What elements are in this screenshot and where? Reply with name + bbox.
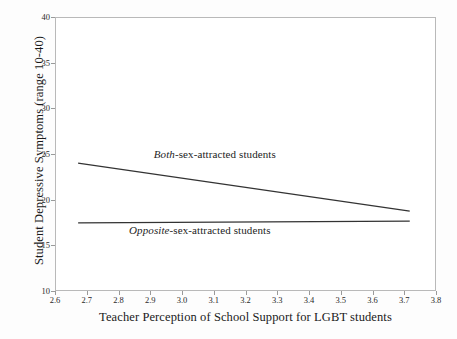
y-tick-mark [51,17,55,18]
x-tick-mark [277,291,278,295]
figure-container: Student Depressive Symptoms (range 10-40… [0,0,457,339]
x-tick-mark [373,291,374,295]
series-label-both-sex-attracted: Both-sex-attracted students [154,148,276,160]
y-tick-label: 30 [20,104,50,113]
x-tick-mark [309,291,310,295]
x-tick-mark [182,291,183,295]
x-tick-mark [150,291,151,295]
y-tick-mark [51,108,55,109]
series-line-opposite-sex-attracted [78,221,410,223]
series-label-both-rest: -sex-attracted students [175,148,276,160]
y-tick-label: 40 [20,13,50,22]
series-label-opposite-emphasis: Opposite [129,224,170,236]
y-tick-mark [51,63,55,64]
series-label-both-emphasis: Both [154,148,175,160]
series-label-opposite-sex-attracted: Opposite-sex-attracted students [129,224,271,236]
x-tick-mark [436,291,437,295]
x-tick-mark [341,291,342,295]
x-tick-mark [214,291,215,295]
y-tick-label: 10 [20,287,50,296]
y-tick-label: 35 [20,59,50,68]
y-tick-label: 20 [20,196,50,205]
x-tick-label: 3.7 [387,296,421,305]
x-tick-label: 3.8 [419,296,453,305]
series-label-opposite-rest: -sex-attracted students [170,224,271,236]
x-tick-label: 2.6 [38,296,72,305]
y-tick-mark [51,154,55,155]
x-tick-mark [119,291,120,295]
x-tick-mark [87,291,88,295]
x-tick-label: 2.9 [133,296,167,305]
x-tick-label: 3.2 [229,296,263,305]
x-tick-mark [246,291,247,295]
x-tick-label: 3.4 [292,296,326,305]
x-axis-title: Teacher Perception of School Support for… [55,310,436,325]
series-line-both-sex-attracted [78,163,410,211]
y-tick-mark [51,200,55,201]
x-tick-label: 3.5 [324,296,358,305]
x-tick-label: 3.1 [197,296,231,305]
x-tick-label: 3.0 [165,296,199,305]
x-tick-label: 3.6 [356,296,390,305]
y-tick-label: 15 [20,241,50,250]
x-tick-mark [404,291,405,295]
x-tick-label: 3.3 [260,296,294,305]
x-tick-label: 2.7 [70,296,104,305]
y-tick-label: 25 [20,150,50,159]
y-tick-mark [51,245,55,246]
x-tick-label: 2.8 [102,296,136,305]
x-tick-mark [55,291,56,295]
